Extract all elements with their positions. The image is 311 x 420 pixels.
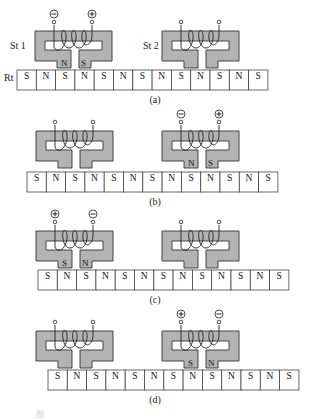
rotor-pole-label: N	[43, 71, 50, 81]
terminal-right	[217, 120, 221, 124]
rotor-pole-label: N	[81, 71, 88, 81]
rotor-pole-label: N	[91, 173, 98, 183]
panel-caption: (d)	[149, 394, 161, 406]
stator-1: NS	[35, 10, 112, 68]
plus-sign-icon	[215, 110, 223, 118]
terminal-left	[53, 120, 57, 124]
rotor-pole-label: S	[209, 371, 214, 381]
terminal-right	[91, 120, 95, 124]
terminal-left	[53, 220, 57, 224]
rotor-pole-label: N	[179, 271, 186, 281]
rotor-pole-label: S	[111, 173, 116, 183]
rotor-pole-label: S	[277, 271, 282, 281]
rotor-pole-label: S	[24, 71, 29, 81]
terminal-right	[91, 220, 95, 224]
rotor-pole-label: N	[197, 71, 204, 81]
rotor-pole-label: S	[122, 271, 127, 281]
terminal-left	[179, 220, 183, 224]
foot-pole-left: N	[61, 58, 68, 68]
rotor-pole-label: S	[256, 71, 261, 81]
rotor-pole-label: S	[171, 371, 176, 381]
rotor-pole-label: S	[150, 173, 155, 183]
rotor-pole-label: S	[238, 271, 243, 281]
rotor-pole-label: N	[257, 271, 264, 281]
panel-d: SNSNSNSNSNSNSNS(d)	[36, 310, 299, 406]
rotor-pole-label: S	[34, 173, 39, 183]
rotor-pole-label: S	[287, 371, 292, 381]
figure-caption: 图	[36, 408, 45, 419]
rotor-pole-label: S	[217, 71, 222, 81]
stator-core	[36, 331, 113, 368]
rotor-pole-label: N	[267, 371, 274, 381]
terminal-right	[217, 320, 221, 324]
rotor-pole-label: S	[248, 371, 253, 381]
panel-c: SNSNSNSNSNSNSNS(c)	[36, 210, 289, 306]
rotor-pole-label: S	[73, 173, 78, 183]
terminal-left	[179, 120, 183, 124]
stator-core	[162, 331, 239, 368]
minus-sign-icon	[177, 110, 185, 118]
rotor-pole-label: N	[207, 173, 214, 183]
rotor-pole-label: S	[161, 271, 166, 281]
rotor-pole-label: S	[140, 71, 145, 81]
terminal-right	[90, 20, 94, 24]
stator-2: NS	[162, 110, 239, 168]
plus-sign-icon	[177, 310, 185, 318]
plus-sign-icon	[88, 10, 96, 18]
panel-b: NSSNSNSNSNSNSNS(b)	[27, 110, 278, 208]
panel-caption: (a)	[149, 94, 160, 106]
foot-pole-left: S	[62, 258, 67, 268]
panel-caption: (c)	[149, 294, 160, 306]
rotor-strip: SNSNSNSNSNSNS	[27, 172, 278, 192]
rotor-pole-label: S	[84, 271, 89, 281]
rotor-pole-label: N	[64, 271, 71, 281]
rotor-pole-label: S	[227, 173, 232, 183]
rotor-pole-label: N	[189, 371, 196, 381]
rotor-label: Rt	[4, 72, 14, 83]
stator-core	[162, 31, 239, 68]
rotor-strip: SNSNSNSNSNSNS	[17, 70, 268, 90]
rotor-pole-label: N	[120, 71, 127, 81]
rotor-pole-label: N	[158, 71, 165, 81]
rotor-strip: SNSNSNSNSNSNS	[48, 370, 299, 390]
stator-1	[36, 320, 113, 368]
foot-pole-left: N	[188, 158, 195, 168]
stator-core	[36, 131, 113, 168]
rotor-pole-label: N	[246, 173, 253, 183]
terminal-right	[91, 320, 95, 324]
rotor-pole-label: N	[53, 173, 60, 183]
rotor-pole-label: S	[199, 271, 204, 281]
rotor-pole-label: N	[228, 371, 235, 381]
rotor-pole-label: S	[45, 271, 50, 281]
rotor-pole-label: S	[178, 71, 183, 81]
stator-core	[35, 31, 112, 68]
rotor-pole-label: S	[132, 371, 137, 381]
rotor-pole-label: N	[141, 271, 148, 281]
stator-1-label: St 1	[10, 40, 26, 51]
stator-1: SN	[36, 210, 113, 268]
rotor-pole-label: S	[266, 173, 271, 183]
panel-a: NSSt 1St 2RtSNSNSNSNSNSNS(a)	[4, 10, 268, 106]
rotor-pole-label: S	[55, 371, 60, 381]
stator-2-label: St 2	[143, 40, 159, 51]
rotor-pole-label: N	[112, 371, 119, 381]
minus-sign-icon	[89, 210, 97, 218]
foot-pole-right: S	[208, 158, 213, 168]
stator-core	[162, 131, 239, 168]
foot-pole-left: S	[188, 358, 193, 368]
terminal-right	[217, 20, 221, 24]
rotor-pole-label: N	[74, 371, 81, 381]
stator-core	[162, 231, 239, 268]
rotor-pole-label: N	[168, 173, 175, 183]
stator-1	[36, 120, 113, 168]
rotor-pole-label: S	[101, 71, 106, 81]
rotor-pole-label: N	[218, 271, 225, 281]
minus-sign-icon	[50, 10, 58, 18]
stepper-motor-figure: NSSt 1St 2RtSNSNSNSNSNSNS(a)NSSNSNSNSNSN…	[0, 0, 311, 420]
terminal-left	[52, 20, 56, 24]
terminal-left	[179, 320, 183, 324]
terminal-right	[217, 220, 221, 224]
foot-pole-right: N	[82, 258, 89, 268]
rotor-pole-label: S	[94, 371, 99, 381]
rotor-pole-label: S	[63, 71, 68, 81]
